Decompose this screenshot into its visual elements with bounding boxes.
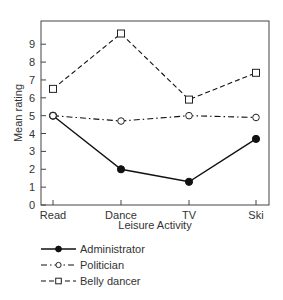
line-chart: 0123456789 ReadDanceTVSki Mean rating Le… xyxy=(0,0,283,300)
legend-item: Administrator xyxy=(41,243,145,255)
legend-label: Administrator xyxy=(80,243,145,255)
y-tick-label: 7 xyxy=(29,74,35,86)
y-tick-label: 2 xyxy=(29,163,35,175)
filled-circle-marker xyxy=(56,246,62,252)
filled-circle-marker xyxy=(252,135,259,142)
legend-item: Belly dancer xyxy=(41,275,141,287)
legend: AdministratorPoliticianBelly dancer xyxy=(41,243,145,287)
filled-circle-marker xyxy=(117,166,124,173)
open-circle-marker xyxy=(186,112,193,119)
y-axis-title: Mean rating xyxy=(12,84,24,142)
open-circle-marker xyxy=(118,118,125,125)
legend-item: Politician xyxy=(41,259,124,271)
y-tick-label: 8 xyxy=(29,56,35,68)
series-politician xyxy=(50,112,260,124)
x-axis: ReadDanceTVSki xyxy=(40,200,264,221)
y-tick-label: 4 xyxy=(29,128,35,140)
y-tick-label: 5 xyxy=(29,110,35,122)
plot-border xyxy=(41,21,269,205)
y-tick-label: 3 xyxy=(29,145,35,157)
y-tick-label: 6 xyxy=(29,92,35,104)
x-tick-label: Ski xyxy=(248,209,263,221)
series-line xyxy=(53,116,256,182)
legend-label: Belly dancer xyxy=(80,275,141,287)
open-circle-marker xyxy=(50,112,57,119)
open-square-marker xyxy=(186,96,193,103)
series-administrator xyxy=(49,112,259,185)
x-tick-label: Read xyxy=(40,209,66,221)
open-square-marker xyxy=(253,69,260,76)
series-layer xyxy=(49,30,259,185)
open-circle-marker xyxy=(253,114,260,121)
open-square-marker xyxy=(56,278,62,284)
plot-frame xyxy=(41,21,269,205)
filled-circle-marker xyxy=(185,178,192,185)
y-tick-label: 9 xyxy=(29,38,35,50)
legend-label: Politician xyxy=(80,259,124,271)
series-line xyxy=(53,116,256,121)
series-line xyxy=(53,34,256,100)
y-tick-label: 1 xyxy=(29,181,35,193)
open-square-marker xyxy=(50,85,57,92)
series-belly-dancer xyxy=(50,30,260,103)
open-circle-marker xyxy=(56,262,61,267)
x-axis-title: Leisure Activity xyxy=(118,219,192,231)
open-square-marker xyxy=(118,30,125,37)
y-tick-label: 0 xyxy=(29,199,35,211)
y-axis: 0123456789 xyxy=(29,38,46,211)
